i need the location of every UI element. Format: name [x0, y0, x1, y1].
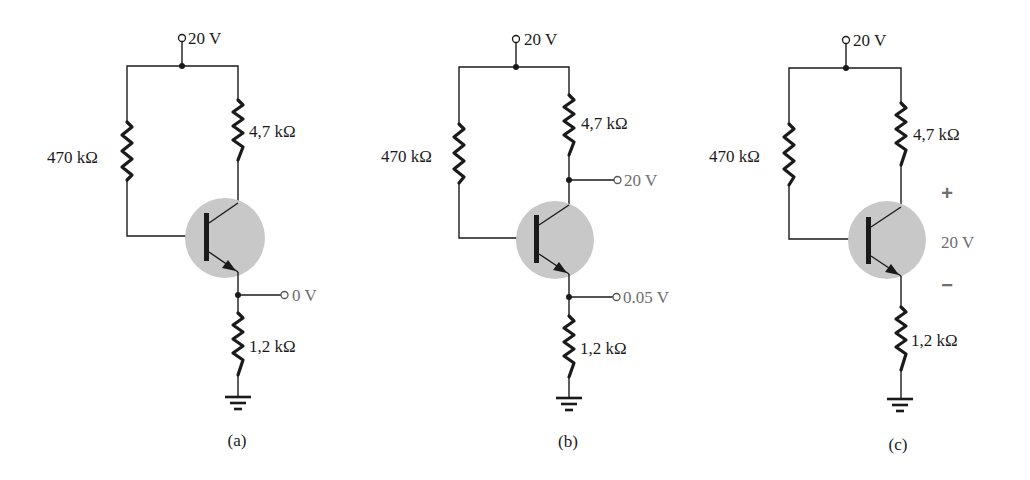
ground-icon — [225, 397, 251, 409]
rb-label: 470 kΩ — [47, 148, 98, 167]
supply-terminal-icon — [513, 36, 520, 43]
collector-probe-label: 20 V — [624, 171, 658, 190]
rc-resistor-icon — [233, 100, 243, 160]
caption-a: (a) — [228, 431, 247, 450]
ground-icon — [887, 399, 913, 411]
vce-plus-sign: + — [941, 182, 953, 204]
re-resistor-icon — [564, 316, 574, 377]
transistor-highlight — [516, 201, 594, 279]
rc-label: 4,7 kΩ — [581, 114, 628, 133]
figure-canvas: 20 V 470 kΩ 4,7 kΩ 0 V 1,2 kΩ — [0, 0, 1030, 480]
circuit-c: 20 V 470 kΩ 4,7 kΩ + 20 V − 1,2 kΩ (c) — [709, 31, 975, 454]
circuit-a: 20 V 470 kΩ 4,7 kΩ 0 V 1,2 kΩ — [47, 29, 317, 450]
rb-resistor-icon — [454, 124, 464, 183]
probe-terminal-icon — [614, 177, 621, 184]
base-bar-icon — [534, 215, 539, 263]
caption-b: (b) — [558, 432, 578, 451]
supply-terminal-icon — [843, 37, 850, 44]
rc-resistor-icon — [564, 95, 574, 155]
re-resistor-icon — [896, 307, 906, 370]
junction-dot-icon — [179, 63, 185, 69]
junction-dot-icon — [843, 65, 849, 71]
supply-label: 20 V — [188, 29, 222, 48]
re-label: 1,2 kΩ — [580, 339, 627, 358]
re-label: 1,2 kΩ — [249, 337, 296, 356]
circuit-diagram: 20 V 470 kΩ 4,7 kΩ 0 V 1,2 kΩ — [0, 0, 1030, 480]
re-resistor-icon — [233, 313, 243, 375]
emitter-probe-label: 0 V — [292, 286, 317, 305]
junction-dot-icon — [513, 64, 519, 70]
base-bar-icon — [204, 213, 209, 261]
rc-resistor-icon — [896, 103, 906, 165]
supply-terminal-icon — [179, 35, 186, 42]
top-rail — [459, 67, 569, 124]
supply-label: 20 V — [853, 31, 887, 50]
rb-label: 470 kΩ — [381, 147, 432, 166]
probe-terminal-icon — [613, 294, 620, 301]
caption-c: (c) — [889, 435, 908, 454]
circuit-b: 20 V 470 kΩ 4,7 kΩ 20 V 0.05 V 1,2 kΩ — [381, 30, 670, 451]
supply-label: 20 V — [524, 30, 558, 49]
vce-label: 20 V — [941, 233, 975, 252]
rb-label: 470 kΩ — [709, 147, 760, 166]
rc-label: 4,7 kΩ — [913, 125, 960, 144]
probe-terminal-icon — [281, 292, 288, 299]
vce-minus-sign: − — [941, 274, 953, 296]
rb-resistor-icon — [122, 122, 132, 180]
emitter-probe-label: 0.05 V — [623, 288, 670, 307]
top-rail — [789, 68, 901, 124]
rb-resistor-icon — [784, 124, 794, 185]
base-bar-icon — [866, 217, 871, 264]
re-label: 1,2 kΩ — [911, 331, 958, 350]
top-rail — [127, 66, 238, 122]
ground-icon — [556, 398, 582, 410]
rc-label: 4,7 kΩ — [249, 122, 296, 141]
